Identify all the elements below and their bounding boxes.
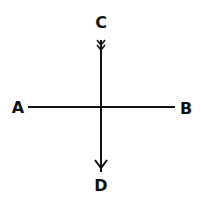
label-c: C <box>95 13 107 32</box>
label-d: D <box>94 176 107 195</box>
cross-diagram: C D A B <box>0 0 201 204</box>
label-b: B <box>180 99 192 118</box>
label-a: A <box>12 98 25 117</box>
